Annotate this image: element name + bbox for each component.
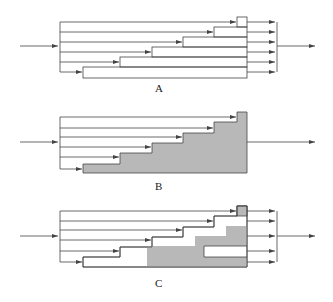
label-a: A	[155, 82, 163, 94]
diagram-canvas: A B	[0, 0, 333, 302]
label-c: C	[155, 277, 162, 289]
diagram-a	[20, 17, 315, 78]
diagram-b	[20, 112, 315, 173]
label-b: B	[155, 180, 162, 192]
diagram-c	[20, 206, 315, 267]
